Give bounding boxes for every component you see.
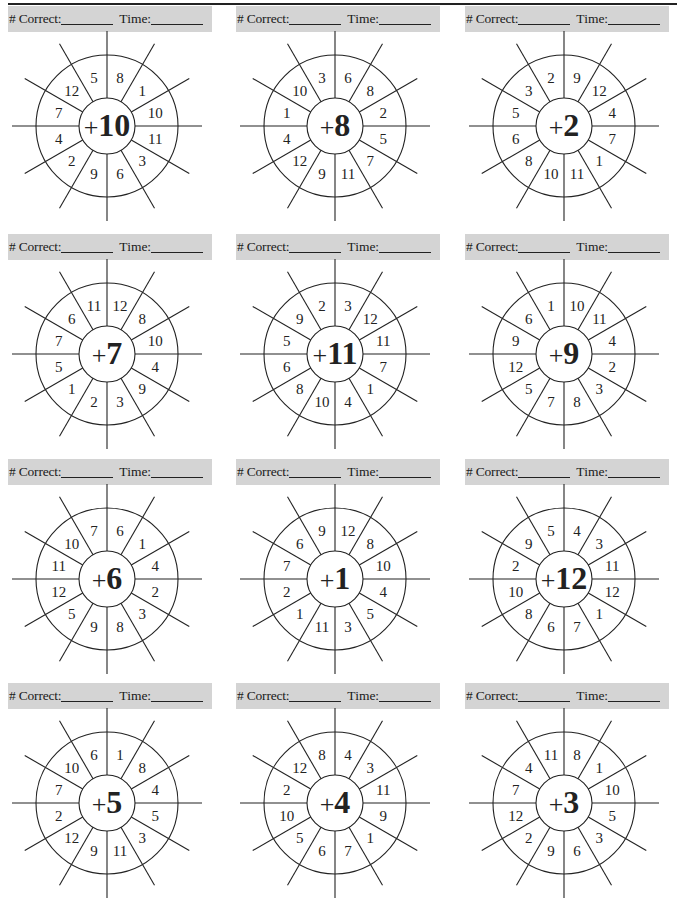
exercise-cell-3: # Correct:Time: 912471111086532+2 (465, 6, 677, 228)
segment-number: 12 (363, 311, 378, 327)
segment-number: 4 (152, 359, 160, 375)
segment-number: 9 (90, 843, 98, 859)
exercise-cell-11: # Correct:Time: 431191765102128+4 (236, 683, 456, 902)
addition-wheel: 128104932157611+7 (8, 234, 228, 456)
segment-number: 11 (376, 333, 390, 349)
segment-number: 12 (64, 83, 79, 99)
segment-number: 5 (55, 359, 63, 375)
segment-number: 4 (283, 131, 291, 147)
exercise-cell-8: # Correct:Time: 128104531112769+1 (236, 459, 456, 681)
segment-number: 8 (296, 381, 304, 397)
segment-number: 6 (116, 166, 124, 182)
segment-number: 3 (318, 70, 326, 86)
center-addend: +10 (84, 107, 131, 143)
exercise-cell-10: # Correct:Time: 184531191227106+5 (8, 683, 228, 902)
segment-number: 8 (116, 70, 124, 86)
segment-number: 8 (525, 606, 533, 622)
segment-number: 8 (318, 747, 326, 763)
segment-number: 12 (64, 830, 79, 846)
segment-number: 6 (318, 843, 326, 859)
segment-number: 11 (605, 558, 619, 574)
segment-number: 9 (90, 619, 98, 635)
segment-number: 2 (512, 558, 520, 574)
addend-value: 7 (106, 335, 122, 371)
segment-number: 2 (90, 394, 98, 410)
segment-number: 12 (605, 584, 620, 600)
segment-number: 8 (139, 760, 147, 776)
segment-number: 12 (508, 359, 523, 375)
segment-number: 1 (116, 747, 124, 763)
center-addend: +4 (320, 784, 351, 820)
segment-number: 8 (525, 153, 533, 169)
segment-number: 10 (279, 808, 294, 824)
segment-number: 3 (139, 830, 147, 846)
segment-number: 11 (376, 782, 390, 798)
segment-number: 7 (367, 153, 375, 169)
segment-number: 8 (573, 747, 581, 763)
addition-wheel: 431191765102128+4 (236, 683, 456, 902)
segment-number: 6 (525, 311, 533, 327)
segment-number: 7 (90, 523, 98, 539)
addend-value: 6 (106, 560, 122, 596)
segment-number: 12 (112, 298, 127, 314)
segment-number: 12 (592, 83, 607, 99)
spoke-line (288, 272, 322, 330)
spoke-line (60, 378, 94, 436)
exercise-cell-5: # Correct:Time: 312117141086592+11 (236, 234, 456, 456)
addition-wheel: 101142387512961+9 (465, 234, 677, 456)
segment-number: 7 (55, 333, 63, 349)
center-addend: +5 (92, 784, 123, 820)
plus-sign: + (549, 113, 564, 142)
plus-sign: + (549, 341, 564, 370)
segment-number: 1 (367, 830, 375, 846)
center-addend: +8 (320, 107, 351, 143)
segment-number: 4 (609, 333, 617, 349)
addend-value: 8 (334, 107, 350, 143)
segment-number: 3 (596, 381, 604, 397)
segment-number: 9 (318, 523, 326, 539)
segment-number: 10 (544, 166, 559, 182)
segment-number: 7 (512, 782, 520, 798)
segment-number: 2 (318, 298, 326, 314)
segment-number: 1 (547, 298, 555, 314)
spoke-line (517, 603, 551, 661)
plus-sign: + (320, 566, 335, 595)
segment-number: 5 (296, 830, 304, 846)
segment-number: 4 (609, 105, 617, 121)
addition-wheel: 912471111086532+2 (465, 6, 677, 228)
segment-number: 9 (547, 843, 555, 859)
exercise-cell-7: # Correct:Time: 614238951211107+6 (8, 459, 228, 681)
exercise-cell-12: # Correct:Time: 811053692127411+3 (465, 683, 677, 902)
segment-number: 6 (573, 843, 581, 859)
plus-sign: + (92, 341, 107, 370)
segment-number: 11 (341, 166, 355, 182)
segment-number: 5 (609, 808, 617, 824)
segment-number: 5 (283, 333, 291, 349)
segment-number: 7 (573, 619, 581, 635)
segment-number: 2 (283, 782, 291, 798)
segment-number: 1 (139, 83, 147, 99)
segment-number: 6 (547, 619, 555, 635)
segment-number: 6 (296, 536, 304, 552)
top-rule (8, 3, 677, 5)
segment-number: 7 (55, 782, 63, 798)
segment-number: 5 (512, 105, 520, 121)
segment-number: 3 (525, 83, 533, 99)
segment-number: 8 (367, 536, 375, 552)
exercise-cell-6: # Correct:Time: 101142387512961+9 (465, 234, 677, 456)
segment-number: 9 (573, 70, 581, 86)
segment-number: 7 (547, 394, 555, 410)
segment-number: 3 (139, 606, 147, 622)
segment-number: 4 (344, 394, 352, 410)
segment-number: 10 (292, 83, 307, 99)
segment-number: 7 (380, 359, 388, 375)
segment-number: 11 (87, 298, 101, 314)
segment-number: 12 (292, 760, 307, 776)
segment-number: 11 (113, 843, 127, 859)
segment-number: 1 (367, 381, 375, 397)
segment-number: 4 (344, 747, 352, 763)
segment-number: 12 (51, 584, 66, 600)
segment-number: 10 (148, 333, 163, 349)
plus-sign: + (320, 113, 335, 142)
spoke-line (517, 827, 551, 885)
